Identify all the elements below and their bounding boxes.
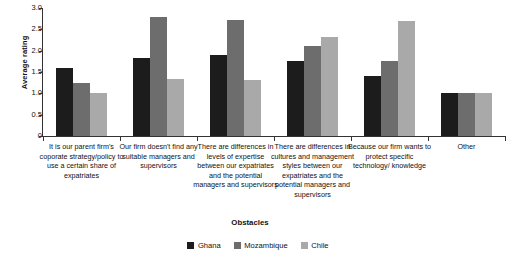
- bar-mozambique: [227, 20, 244, 136]
- bar-ghana: [441, 93, 458, 136]
- legend-item: Ghana: [187, 242, 220, 250]
- y-axis-tick-mark: [39, 115, 42, 116]
- bar-chile: [475, 93, 492, 136]
- bar-ghana: [56, 68, 73, 136]
- bar-ghana: [133, 58, 150, 137]
- x-axis-category-label: It is our parent firm's coporate strateg…: [39, 142, 124, 180]
- bar-group: [43, 8, 120, 136]
- x-axis-tick-mark: [197, 137, 198, 141]
- x-axis-category-label: Our firm doesn't find any suitable manag…: [116, 142, 201, 171]
- bar-group: [197, 8, 274, 136]
- plot-area: [43, 8, 505, 136]
- y-axis-tick-mark: [39, 51, 42, 52]
- x-axis-title: Obstacles: [0, 218, 500, 227]
- x-axis-tick-mark: [274, 137, 275, 141]
- legend-label: Chile: [311, 242, 328, 250]
- legend-swatch-icon: [234, 242, 241, 249]
- bar-mozambique: [304, 46, 321, 136]
- legend-swatch-icon: [187, 242, 194, 249]
- x-axis-category-label: There are differences in cultures and ma…: [270, 142, 355, 199]
- legend-label: Ghana: [198, 242, 221, 250]
- legend-label: Mozambique: [244, 242, 287, 250]
- x-axis-tick-mark: [43, 137, 44, 141]
- bar-chile: [167, 79, 184, 136]
- x-axis-category-label: There are differences in levels of exper…: [193, 142, 278, 190]
- x-axis-category-labels: It is our parent firm's coporate strateg…: [43, 142, 505, 214]
- bar-mozambique: [458, 93, 475, 136]
- x-axis-category-label: Other: [424, 142, 509, 152]
- bar-chile: [90, 93, 107, 136]
- y-axis-tick-mark: [39, 136, 42, 137]
- bar-chile: [321, 37, 338, 136]
- bar-mozambique: [150, 17, 167, 136]
- bar-mozambique: [381, 61, 398, 136]
- x-axis-tick-mark: [428, 137, 429, 141]
- bar-chile: [244, 80, 261, 136]
- legend-item: Chile: [301, 242, 329, 250]
- legend-swatch-icon: [301, 242, 308, 249]
- y-axis-tick-mark: [39, 29, 42, 30]
- bar-group: [274, 8, 351, 136]
- x-axis-category-label: Because our firm wants to protect specif…: [347, 142, 432, 171]
- x-axis-tick-mark: [120, 137, 121, 141]
- x-axis-tick-mark: [505, 137, 506, 141]
- y-axis-tick-mark: [39, 72, 42, 73]
- chart-legend: GhanaMozambiqueChile: [0, 242, 516, 250]
- bar-mozambique: [73, 83, 90, 136]
- x-axis-tick-mark: [351, 137, 352, 141]
- y-axis-tick-mark: [39, 8, 42, 9]
- bar-ghana: [364, 76, 381, 136]
- bar-group: [351, 8, 428, 136]
- bar-group: [428, 8, 505, 136]
- bar-chile: [398, 21, 415, 136]
- y-axis-tick-mark: [39, 93, 42, 94]
- bar-group: [120, 8, 197, 136]
- bar-chart: Average rating 00.51.01.52.02.53.0 It is…: [0, 0, 516, 267]
- bar-ghana: [210, 55, 227, 136]
- bar-ghana: [287, 61, 304, 136]
- legend-item: Mozambique: [234, 242, 288, 250]
